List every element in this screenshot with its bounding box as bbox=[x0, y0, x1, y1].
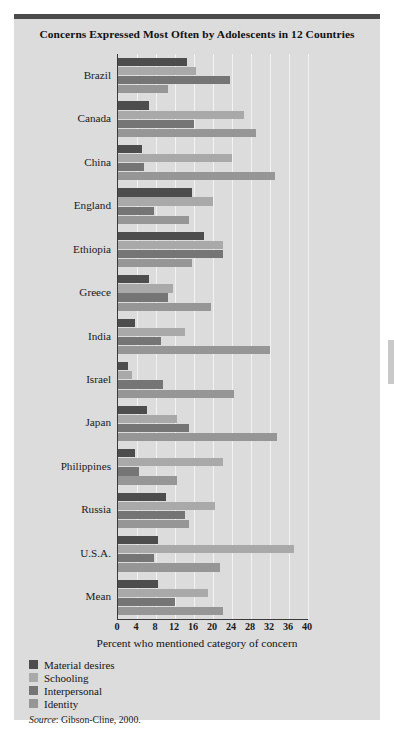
bar bbox=[118, 284, 173, 292]
bar-group: Mean bbox=[118, 580, 308, 616]
bar-group: Philippines bbox=[118, 449, 308, 485]
bar bbox=[118, 467, 139, 475]
bar bbox=[118, 120, 194, 128]
bar bbox=[118, 511, 185, 519]
plot-area: BrazilCanadaChinaEnglandEthiopiaGreeceIn… bbox=[117, 54, 308, 620]
bar-group: England bbox=[118, 188, 308, 224]
bar bbox=[118, 328, 185, 336]
x-tick-label: 16 bbox=[188, 621, 198, 632]
bar bbox=[118, 241, 223, 249]
category-label-canada: Canada bbox=[77, 112, 111, 124]
figure-top-rule bbox=[14, 14, 380, 19]
bar bbox=[118, 337, 161, 345]
bar bbox=[118, 580, 158, 588]
x-tick-label: 12 bbox=[169, 621, 179, 632]
bar-group: Greece bbox=[118, 275, 308, 311]
bar bbox=[118, 380, 163, 388]
legend-item: Identity bbox=[29, 697, 115, 710]
source-note: Source: Gibson-Cline, 2000. bbox=[29, 714, 141, 725]
bar bbox=[118, 293, 168, 301]
bar bbox=[118, 424, 189, 432]
x-tick-label: 0 bbox=[114, 621, 119, 632]
x-tick-label: 20 bbox=[207, 621, 217, 632]
bar bbox=[118, 85, 168, 93]
x-tick-label: 40 bbox=[302, 621, 312, 632]
bar bbox=[118, 362, 128, 370]
bar bbox=[118, 554, 154, 562]
category-label-england: England bbox=[74, 199, 111, 211]
bar bbox=[118, 259, 192, 267]
x-axis-title: Percent who mentioned category of concer… bbox=[14, 637, 380, 649]
legend-label: Schooling bbox=[44, 672, 89, 684]
category-label-ethiopia: Ethiopia bbox=[73, 243, 111, 255]
bar-group: Canada bbox=[118, 101, 308, 137]
bar bbox=[118, 415, 177, 423]
legend-swatch-icon bbox=[29, 660, 38, 669]
bar-group: China bbox=[118, 145, 308, 181]
bar bbox=[118, 232, 204, 240]
bar bbox=[118, 303, 211, 311]
category-label-u-s-a: U.S.A. bbox=[80, 547, 111, 559]
legend-label: Identity bbox=[44, 698, 78, 710]
x-tick-label: 36 bbox=[283, 621, 293, 632]
bar bbox=[118, 390, 234, 398]
bar bbox=[118, 536, 158, 544]
x-tick-label: 28 bbox=[245, 621, 255, 632]
bar-group: Japan bbox=[118, 406, 308, 442]
category-label-israel: Israel bbox=[86, 373, 111, 385]
source-label: Source bbox=[29, 714, 56, 725]
bar bbox=[118, 250, 223, 258]
bar-group: Brazil bbox=[118, 58, 308, 94]
bar bbox=[118, 197, 213, 205]
bar bbox=[118, 129, 256, 137]
bar-group: Ethiopia bbox=[118, 232, 308, 268]
legend-swatch-icon bbox=[29, 686, 38, 695]
bar-group: U.S.A. bbox=[118, 536, 308, 572]
bar-group: Israel bbox=[118, 362, 308, 398]
category-label-china: China bbox=[84, 156, 111, 168]
bar bbox=[118, 154, 232, 162]
bar bbox=[118, 589, 208, 597]
bar bbox=[118, 493, 166, 501]
category-label-india: India bbox=[88, 330, 111, 342]
legend: Material desiresSchoolingInterpersonalId… bbox=[29, 658, 115, 710]
bar-group: Russia bbox=[118, 493, 308, 529]
x-tick-label: 24 bbox=[226, 621, 236, 632]
bar bbox=[118, 163, 144, 171]
page-title: Concerns Expressed Most Often by Adolesc… bbox=[14, 28, 380, 40]
x-tick-label: 4 bbox=[133, 621, 138, 632]
bar-group: India bbox=[118, 319, 308, 355]
bar bbox=[118, 476, 177, 484]
bar bbox=[118, 207, 154, 215]
bar bbox=[118, 76, 230, 84]
legend-label: Material desires bbox=[44, 659, 115, 671]
bar bbox=[118, 406, 147, 414]
legend-item: Schooling bbox=[29, 671, 115, 684]
figure-panel: Concerns Expressed Most Often by Adolesc… bbox=[14, 14, 380, 720]
bar bbox=[118, 319, 135, 327]
bar bbox=[118, 449, 135, 457]
bar bbox=[118, 101, 149, 109]
bar bbox=[118, 598, 175, 606]
bar bbox=[118, 520, 189, 528]
bar bbox=[118, 371, 132, 379]
legend-item: Material desires bbox=[29, 658, 115, 671]
category-label-russia: Russia bbox=[81, 503, 111, 515]
legend-swatch-icon bbox=[29, 699, 38, 708]
category-label-mean: Mean bbox=[86, 590, 111, 602]
legend-swatch-icon bbox=[29, 673, 38, 682]
bar bbox=[118, 275, 149, 283]
bar bbox=[118, 58, 187, 66]
category-label-brazil: Brazil bbox=[84, 69, 111, 81]
x-tick-label: 32 bbox=[264, 621, 274, 632]
bar bbox=[118, 145, 142, 153]
bar bbox=[118, 607, 223, 615]
legend-label: Interpersonal bbox=[44, 685, 102, 697]
bar bbox=[118, 67, 196, 75]
category-label-greece: Greece bbox=[79, 286, 111, 298]
bar bbox=[118, 346, 270, 354]
bar bbox=[118, 502, 215, 510]
gridline bbox=[308, 54, 309, 619]
bar bbox=[118, 458, 223, 466]
x-tick-label: 8 bbox=[152, 621, 157, 632]
